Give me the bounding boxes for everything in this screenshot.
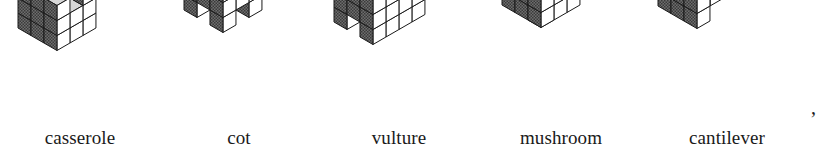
cube-face <box>184 0 197 18</box>
figure-label-mushroom: mushroom <box>480 127 642 149</box>
figure-label-cantilever: cantilever <box>642 127 812 149</box>
voxel-drawing-casserole <box>0 0 160 128</box>
trailing-comma: , <box>811 96 816 119</box>
figure-cot: cot <box>160 0 318 167</box>
cube-face <box>710 0 723 6</box>
figure-vulture: vulture <box>318 0 480 167</box>
voxel-drawing-mushroom <box>480 0 642 128</box>
cube-face <box>658 0 671 14</box>
cube-face <box>502 0 515 13</box>
figure-cantilever: cantilever <box>642 0 812 167</box>
voxel-drawing-vulture <box>318 0 480 128</box>
figure-label-vulture: vulture <box>318 127 480 149</box>
figure-label-cot: cot <box>160 127 318 149</box>
figure-label-casserole: casserole <box>0 127 160 149</box>
figure-casserole: casserole <box>0 0 160 167</box>
figure-mushroom: mushroom <box>480 0 642 167</box>
cube-face <box>249 0 262 18</box>
cube-face <box>567 0 580 13</box>
voxel-figure-row: casserolecotvulturemushroomcantilever <box>0 0 824 167</box>
voxel-drawing-cantilever <box>642 0 812 128</box>
voxel-drawing-cot <box>160 0 318 128</box>
